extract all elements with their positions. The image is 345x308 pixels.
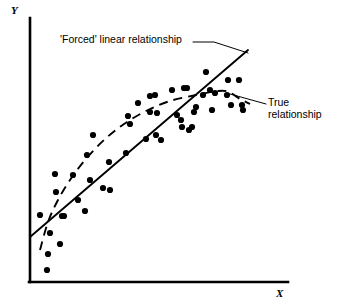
- true-relationship-curve: [40, 91, 250, 250]
- true-relationship-label-line1: True: [268, 96, 289, 108]
- x-axis-label: X: [276, 288, 283, 299]
- data-point: [225, 77, 231, 83]
- y-axis-label: Y: [11, 5, 18, 16]
- forced-label-leader-line: [193, 42, 248, 53]
- data-point: [179, 124, 185, 130]
- data-point: [189, 124, 195, 130]
- data-point: [135, 100, 141, 106]
- data-point: [106, 159, 112, 165]
- true-relationship-label: True relationship: [268, 96, 322, 120]
- data-point: [158, 137, 164, 143]
- plot-canvas: [0, 0, 345, 308]
- data-point: [90, 132, 96, 138]
- data-point: [153, 132, 159, 138]
- data-point: [100, 185, 106, 191]
- data-point: [224, 92, 230, 98]
- data-point: [37, 212, 43, 218]
- data-point: [57, 241, 63, 247]
- forced-linear-relationship-label: 'Forced' linear relationship: [60, 33, 182, 45]
- true-relationship-label-line2: relationship: [268, 108, 322, 120]
- data-point: [228, 102, 234, 108]
- data-point: [178, 117, 184, 123]
- data-point: [44, 267, 50, 273]
- forced-linear-relationship-line: [30, 50, 248, 237]
- data-point: [203, 69, 209, 75]
- data-point: [52, 171, 58, 177]
- data-point: [236, 77, 242, 83]
- data-point: [127, 121, 133, 127]
- axes-group: [29, 18, 288, 282]
- data-point: [87, 177, 93, 183]
- data-point: [125, 113, 131, 119]
- data-point: [47, 230, 53, 236]
- data-point: [152, 92, 158, 98]
- data-point: [61, 213, 67, 219]
- data-point: [209, 107, 215, 113]
- data-point: [53, 189, 59, 195]
- scatter-points: [37, 69, 246, 273]
- data-point: [184, 85, 190, 91]
- data-point: [212, 90, 218, 96]
- data-point: [107, 187, 113, 193]
- data-point: [82, 208, 88, 214]
- data-point: [169, 87, 175, 93]
- data-point: [240, 107, 246, 113]
- scatter-plot-figure: Y X 'Forced' linear relationship True re…: [0, 0, 345, 308]
- data-point: [193, 104, 199, 110]
- data-point: [154, 110, 160, 116]
- data-point: [45, 251, 51, 257]
